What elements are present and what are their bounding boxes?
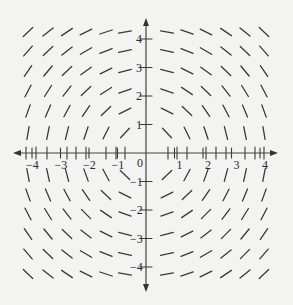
x-tick-label: −4 — [26, 158, 39, 172]
slope-segment — [62, 250, 72, 258]
slope-segment — [44, 66, 52, 76]
slope-segment — [182, 210, 193, 217]
slope-segment — [222, 86, 230, 96]
slope-segment — [161, 108, 173, 114]
slope-segment — [100, 231, 112, 237]
slope-segment — [161, 212, 173, 216]
slope-segment — [221, 28, 232, 35]
slope-segment — [240, 28, 250, 36]
slope-segment — [242, 86, 249, 97]
slope-segment — [45, 209, 52, 220]
slope-segment — [23, 28, 32, 37]
slope-segment — [240, 249, 249, 258]
slope-segment — [161, 192, 173, 198]
y-axis-arrow-up-icon — [143, 18, 149, 26]
slope-segment — [200, 48, 211, 55]
slope-segment — [25, 208, 31, 220]
x-axis-arrow-left-icon — [13, 150, 21, 156]
slope-segment — [184, 127, 190, 139]
slope-segment — [201, 230, 211, 238]
slope-segment — [24, 46, 33, 56]
x-tick-label: 2 — [205, 158, 211, 172]
slope-segment — [43, 47, 52, 56]
x-tick-label: −2 — [83, 158, 96, 172]
slope-segment — [181, 49, 193, 54]
slope-segment — [63, 209, 71, 219]
slope-segment — [163, 128, 172, 137]
slope-segment — [221, 67, 230, 76]
slope-segment — [47, 127, 50, 140]
slope-segment — [224, 127, 227, 140]
slope-segment — [241, 229, 249, 239]
y-tick-label: 2 — [136, 89, 142, 103]
slope-segment — [181, 231, 193, 237]
slope-segment — [101, 88, 112, 95]
x-tick-label: −3 — [55, 158, 68, 172]
slope-segment — [182, 107, 191, 116]
slope-segment — [260, 66, 267, 77]
slope-segment — [240, 47, 249, 56]
slope-segment — [81, 87, 90, 96]
x-tick-label: 4 — [262, 158, 268, 172]
slope-segment — [204, 127, 208, 139]
slope-segment — [181, 252, 193, 257]
slope-segment — [27, 127, 29, 140]
slope-segment — [262, 105, 266, 117]
slope-segment — [82, 106, 89, 117]
slope-segment — [202, 190, 209, 201]
slope-segment — [181, 30, 193, 34]
slope-segment — [44, 229, 52, 239]
y-tick-label: −3 — [130, 232, 143, 246]
slope-field-plot: 0 −4−3−2−112344321−1−2−3−4 — [0, 0, 293, 305]
slope-segment — [259, 28, 268, 37]
x-tick-label: 3 — [234, 158, 240, 172]
slope-segment — [45, 189, 50, 201]
slope-segment — [261, 85, 267, 97]
slope-segment — [242, 209, 249, 220]
slope-segment — [24, 66, 31, 77]
slope-segment — [119, 50, 132, 53]
slope-segment — [240, 270, 250, 278]
slope-segment — [263, 127, 265, 140]
slope-segment — [100, 30, 112, 34]
slope-segment — [243, 189, 248, 201]
slope-segment — [26, 189, 30, 201]
y-tick-label: −2 — [130, 203, 143, 217]
slope-segment — [161, 253, 174, 256]
slope-segment — [101, 107, 110, 116]
y-tick-label: 1 — [136, 118, 142, 132]
y-tick-label: 4 — [136, 32, 142, 46]
y-tick-label: −4 — [130, 260, 143, 274]
slope-segment — [161, 31, 174, 33]
slope-segment — [184, 169, 190, 180]
slope-segment — [161, 232, 174, 235]
slope-segment — [100, 252, 112, 257]
slope-segment — [62, 47, 72, 55]
slope-segment — [119, 89, 131, 93]
slope-segment — [181, 272, 193, 276]
slope-segment — [119, 69, 132, 72]
slope-segment — [260, 46, 269, 56]
x-tick-label: 1 — [177, 158, 183, 172]
slope-segment — [80, 48, 91, 55]
slope-segment — [45, 105, 50, 117]
slope-segment — [261, 208, 267, 220]
slope-segment — [221, 229, 230, 238]
slope-segment — [24, 229, 31, 240]
x-axis-arrow-right-icon — [270, 150, 278, 156]
slope-segment — [162, 171, 171, 180]
slope-segment — [43, 250, 52, 259]
slope-segment — [81, 209, 90, 218]
slope-segment — [26, 105, 30, 117]
slope-segment — [260, 249, 268, 259]
slope-segment — [259, 270, 268, 279]
slope-segment — [119, 31, 132, 33]
slope-segment — [62, 270, 73, 277]
slope-segment — [200, 271, 212, 277]
axes — [13, 18, 278, 292]
slope-segment — [23, 270, 32, 279]
slope-segment — [241, 66, 249, 76]
slope-segment — [81, 230, 91, 238]
slope-segment — [221, 270, 232, 277]
slope-segment — [24, 249, 32, 259]
